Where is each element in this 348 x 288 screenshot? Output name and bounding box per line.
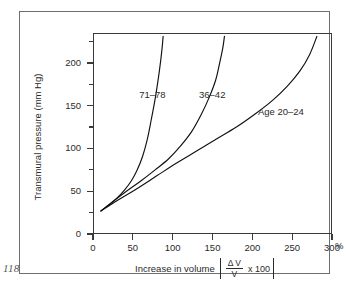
curve-label-36-42: 36–42 <box>199 89 225 100</box>
y-tick-minor <box>89 84 93 85</box>
y-tick-label: 0 <box>55 228 81 239</box>
chart-curves <box>93 33 332 234</box>
y-tick-major <box>87 191 93 192</box>
x-tick-major <box>252 234 253 240</box>
y-tick-minor <box>89 41 93 42</box>
x-tick-label: 150 <box>198 242 228 253</box>
delta-v-over-v-fraction: Δ V V <box>226 259 243 279</box>
page-number: 118 <box>3 262 20 274</box>
y-tick-minor <box>89 212 93 213</box>
x-tick-major <box>292 234 293 240</box>
plot-area: 050100150200050100150200250300 71–78 36–… <box>93 33 332 234</box>
y-tick-label: 200 <box>55 57 81 68</box>
x-tick-label: 50 <box>118 242 148 253</box>
y-axis-title-text: Transmural pressure (mm Hg) <box>32 62 43 212</box>
curve-label-71-78: 71–78 <box>139 89 165 100</box>
x-tick-label: 0 <box>78 242 108 253</box>
y-tick-major <box>87 105 93 106</box>
x-tick-major <box>212 234 213 240</box>
y-tick-label: 150 <box>55 100 81 111</box>
y-tick-minor <box>89 126 93 127</box>
x-axis-title-text: Increase in volume <box>135 263 215 274</box>
y-tick-major <box>87 148 93 149</box>
figure-frame: 050100150200050100150200250300 71–78 36–… <box>19 11 330 274</box>
y-tick-minor <box>89 169 93 170</box>
y-axis-title: Transmural pressure (mm Hg) <box>18 0 29 62</box>
y-tick-major <box>87 62 93 63</box>
y-tick-label: 100 <box>55 142 81 153</box>
x-tick-major <box>92 234 93 240</box>
curve-label-age-20-24: Age 20–24 <box>258 106 304 117</box>
curve-age-20-24 <box>101 36 317 210</box>
fraction-denominator: V <box>232 269 238 278</box>
x-axis-title: Increase in volume Δ V V x 100 <box>135 258 274 279</box>
y-tick-label: 50 <box>55 185 81 196</box>
x-axis-unit-percent: % <box>335 240 343 251</box>
curve-36-42 <box>101 36 224 210</box>
x-tick-major <box>331 234 332 240</box>
x-axis-formula-bracket: Δ V V x 100 <box>220 258 274 279</box>
curve-71-78 <box>101 36 163 210</box>
x-tick-major <box>132 234 133 240</box>
x-tick-label: 200 <box>237 242 267 253</box>
fraction-multiplier: x 100 <box>248 264 270 274</box>
x-tick-label: 100 <box>158 242 188 253</box>
x-tick-label: 250 <box>277 242 307 253</box>
x-tick-major <box>172 234 173 240</box>
fraction-numerator: Δ V <box>226 259 243 269</box>
